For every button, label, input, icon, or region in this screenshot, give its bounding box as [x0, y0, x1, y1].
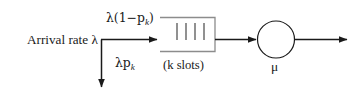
queue-slot-ticks	[177, 23, 204, 40]
admitted-flow-expression: λ(1−p	[106, 10, 145, 25]
blocked-flow-subscript: k	[131, 62, 135, 72]
diagram-canvas	[0, 0, 362, 101]
admitted-flow-label: λ(1−pk)	[106, 12, 154, 27]
server-circle	[258, 21, 295, 58]
blocked-flow-expression: λp	[115, 55, 131, 70]
blocked-flow-label: λpk	[115, 57, 135, 72]
queue-capacity-label: (k slots)	[163, 59, 204, 72]
queueing-diagram: Arrival rate λ λ(1−pk) λpk (k slots) μ	[0, 0, 362, 101]
admitted-flow-paren: )	[149, 10, 154, 25]
arrival-rate-label: Arrival rate λ	[27, 33, 98, 46]
queue-box	[160, 18, 215, 52]
service-rate-label: μ	[271, 60, 278, 73]
